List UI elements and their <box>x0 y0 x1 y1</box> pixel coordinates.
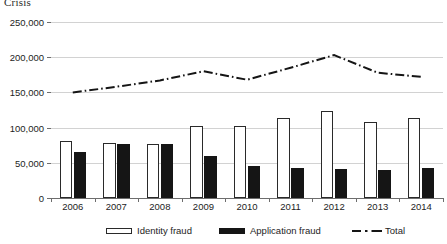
x-tick-label: 2010 <box>227 202 267 212</box>
open-bar-swatch-icon <box>106 228 132 234</box>
legend-label: Total <box>385 226 405 236</box>
x-tick-label: 2014 <box>401 202 441 212</box>
chart-legend: Identity fraud Application fraud Total <box>0 224 447 242</box>
x-tick-label: 2007 <box>96 202 136 212</box>
total-line-path <box>73 55 421 92</box>
y-tick-label: 200,000 <box>0 53 44 63</box>
x-tick-label: 2009 <box>183 202 223 212</box>
x-tick-mark <box>443 198 444 202</box>
x-tick-label: 2006 <box>53 202 93 212</box>
x-tick-label: 2013 <box>358 202 398 212</box>
y-tick-label: 50,000 <box>0 159 44 169</box>
legend-label: Application fraud <box>250 226 321 236</box>
total-line-series <box>51 22 443 198</box>
y-tick-label: 100,000 <box>0 124 44 134</box>
chart-title: Crisis <box>4 0 31 8</box>
y-tick-label: 150,000 <box>0 88 44 98</box>
chart-container: Crisis 250,000 200,000 150,000 100,000 5… <box>0 0 447 244</box>
x-tick-label: 2012 <box>314 202 354 212</box>
filled-bar-swatch-icon <box>219 228 245 234</box>
x-axis-line <box>51 198 443 199</box>
dash-dot-line-swatch-icon <box>352 228 382 234</box>
x-tick-label: 2008 <box>140 202 180 212</box>
y-tick-label: 250,000 <box>0 18 44 28</box>
x-tick-label: 2011 <box>271 202 311 212</box>
y-tick-label: 0 <box>0 194 44 204</box>
legend-label: Identity fraud <box>137 226 192 236</box>
